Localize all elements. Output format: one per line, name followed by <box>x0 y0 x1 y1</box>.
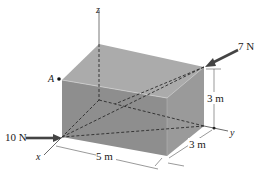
height-dimension-label: 3 m <box>207 92 224 104</box>
force-10n-label: 10 N <box>5 131 27 143</box>
force-7n-label: 7 N <box>238 40 254 52</box>
width-dimension-label: 3 m <box>189 138 206 150</box>
y-axis-point <box>213 127 216 130</box>
y-axis-label: y <box>229 127 235 138</box>
force-7n-arrowhead-icon <box>205 58 216 67</box>
width-dimension-tick <box>168 163 184 166</box>
x-axis-label: x <box>35 151 41 162</box>
y-axis-line <box>204 126 228 131</box>
force-7n-arrow-shaft <box>212 50 238 63</box>
length-dimension-label: 5 m <box>96 150 113 162</box>
point-a-label: A <box>47 73 55 84</box>
z-axis-label: z <box>95 4 100 15</box>
point-a-marker <box>57 77 61 81</box>
length-dimension-tick <box>155 158 162 166</box>
box-diagram: z y x A 7 N 10 N 3 m 5 m 3 m <box>0 0 257 181</box>
force-10n-arrowhead-icon <box>53 134 62 142</box>
